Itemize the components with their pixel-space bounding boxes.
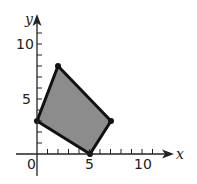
y-axis-label: y — [24, 11, 34, 27]
x-ticks — [48, 149, 153, 154]
shaded-quadrilateral — [37, 66, 111, 154]
vertex-point — [55, 63, 61, 69]
x-tick-label-5: 5 — [85, 156, 94, 172]
coordinate-plane: 0 5 10 5 10 x y — [0, 0, 197, 184]
y-tick-label-5: 5 — [22, 91, 31, 107]
y-ticks — [37, 33, 42, 143]
x-axis-label: x — [176, 146, 184, 162]
x-tick-label-0: 0 — [27, 156, 36, 172]
y-tick-label-10: 10 — [16, 36, 34, 52]
x-tick-label-10: 10 — [134, 156, 152, 172]
vertex-point — [108, 118, 114, 124]
